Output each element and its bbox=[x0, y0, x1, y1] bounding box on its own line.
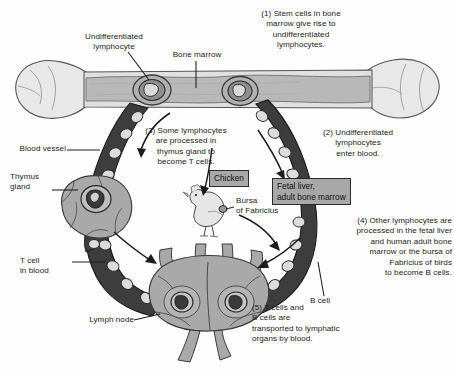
label-t-cell-in-blood: T cell in blood bbox=[20, 256, 74, 277]
step-4-text: (4) Other lymphocytes are processed in t… bbox=[298, 216, 452, 278]
callout-box-fetal-liver: Fetal liver, adult bone marrow bbox=[272, 178, 351, 205]
step-5-text: (5) T cells and B cells are transported … bbox=[252, 303, 382, 345]
step-1-text: (1) Stem cells in bone marrow give rise … bbox=[242, 9, 360, 51]
label-undifferentiated-lymphocyte: Undifferentiated lymphocyte bbox=[62, 32, 166, 53]
label-lymph-node: Lymph node bbox=[54, 315, 134, 325]
thymus-gland-graphic bbox=[62, 176, 132, 238]
chicken-graphic bbox=[183, 185, 234, 237]
diagram-canvas: Undifferentiated lymphocyte Bone marrow … bbox=[0, 0, 454, 372]
label-bone-marrow: Bone marrow bbox=[160, 50, 234, 60]
marrow-lymphocyte-right bbox=[222, 77, 258, 106]
lymph-node-graphic bbox=[149, 244, 269, 362]
label-blood-vessel: Blood vessel bbox=[0, 144, 66, 154]
step-3-text: (3) Some lymphocytes are processed in th… bbox=[128, 126, 244, 168]
label-thymus-gland: Thymus gland bbox=[10, 172, 58, 193]
callout-box-chicken: Chicken bbox=[209, 170, 249, 187]
marrow-lymphocyte-left bbox=[133, 75, 171, 105]
step-2-text: (2) Undifferentiated lymphocytes enter b… bbox=[302, 128, 414, 159]
